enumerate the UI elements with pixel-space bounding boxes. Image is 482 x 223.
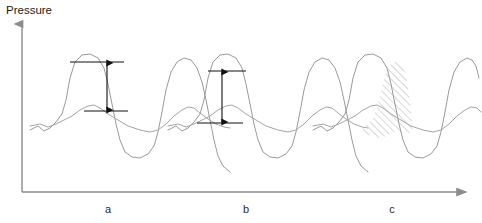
panel-label-a: a [105, 203, 112, 215]
pressure-waveform-figure: a b c Pressure [0, 0, 482, 223]
figure-canvas: a b c Pressure [0, 0, 482, 223]
panel-label-c: c [389, 203, 395, 215]
panel-label-b: b [243, 203, 249, 215]
pressure-axis-label: Pressure [6, 4, 52, 16]
